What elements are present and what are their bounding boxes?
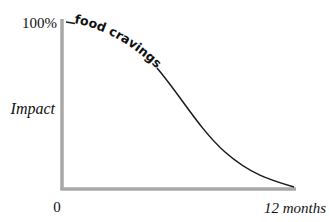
x-tick-12-months: 12 months [264, 200, 326, 216]
curve-label: food cravings [73, 11, 164, 70]
y-tick-100: 100% [22, 15, 57, 31]
curve-start-dash [66, 22, 75, 24]
chart: food cravings 100% Impact 0 12 months [0, 0, 329, 222]
x-tick-0: 0 [53, 199, 61, 215]
chart-svg: food cravings 100% Impact 0 12 months [0, 0, 329, 222]
food-cravings-curve [157, 68, 294, 187]
y-axis-label: Impact [10, 100, 56, 118]
